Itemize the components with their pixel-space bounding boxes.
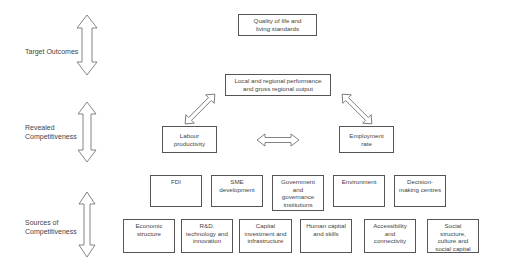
horizontal-double-arrow	[257, 134, 299, 146]
box-labour-productivity: Labour productivity	[162, 126, 217, 153]
box-capital-investment: Capital investment and infrastructure	[239, 219, 292, 253]
box-social-structure: Social structure, culture and social cap…	[427, 219, 479, 253]
box-accessibility-connectivity: Accessibility and connectivity	[364, 219, 416, 253]
box-regional-performance: Local and regional performance and gross…	[225, 74, 331, 96]
diagonal-double-arrow-left	[181, 90, 219, 128]
vertical-double-arrow-revealed	[78, 102, 96, 162]
box-decision-making-centres: Decision- making centres	[394, 175, 446, 207]
box-fdi: FDI	[150, 175, 202, 207]
vertical-double-arrow-sources	[79, 192, 95, 257]
box-employment-rate: Employment rate	[339, 126, 394, 153]
box-quality-of-life: Quality of life and living standards	[238, 14, 317, 36]
box-rd-technology-innovation: R&D, technology and innovation	[181, 219, 233, 253]
vertical-double-arrow-target	[77, 15, 97, 75]
box-environment: Environment	[333, 175, 385, 207]
box-economic-structure: Economic structure	[123, 219, 175, 253]
box-sme-development: SME development	[211, 175, 263, 207]
box-human-capital: Human capital and skills	[300, 219, 352, 253]
diagonal-double-arrow-right	[338, 90, 376, 128]
box-government-institutions: Government and governance institutions	[272, 175, 324, 211]
